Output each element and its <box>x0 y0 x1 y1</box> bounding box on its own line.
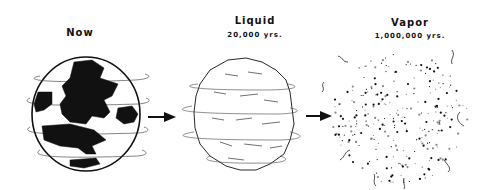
arrow-right-icon <box>306 111 332 121</box>
diagram-canvas <box>0 0 483 190</box>
arrow-right-icon <box>148 112 176 122</box>
liquid-planet-illustration <box>182 58 300 170</box>
earth-now-illustration <box>27 57 149 171</box>
vapor-cloud-illustration <box>332 54 468 183</box>
